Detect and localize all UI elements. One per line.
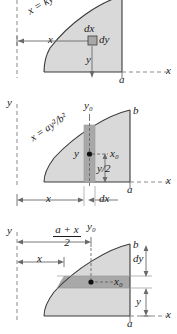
panel-3-a-label: a xyxy=(127,317,133,329)
shaded-area-region xyxy=(44,0,122,72)
panel-2-x0-label: x₀ xyxy=(110,147,119,159)
panel-1-svg xyxy=(0,0,177,96)
panel-2-a-label: a xyxy=(127,183,133,195)
panel-1-y-label: y xyxy=(86,53,91,65)
panel-3-y0-label: y₀ xyxy=(87,220,96,232)
panel-2-y0-label: y₀ xyxy=(84,99,93,111)
differential-element-square xyxy=(88,36,97,45)
panel-3-x0-label: x₀ xyxy=(114,275,123,287)
panel-3-b-label: b xyxy=(133,238,139,250)
dy-arrow-up xyxy=(144,245,149,251)
midpoint-arrow-left xyxy=(17,240,23,245)
panel-3-midpoint-fraction: a + x 2 xyxy=(40,220,94,248)
panel-3-diagram: y a + x 2 y₀ x b dy x₀ y a x xyxy=(0,218,177,334)
panel-2-svg xyxy=(0,96,177,218)
shaded-area-region xyxy=(24,110,130,182)
centroid-dot xyxy=(87,151,92,156)
panel-3-dy-label: dy xyxy=(133,252,143,264)
panel-1-dx-label: dx xyxy=(84,22,94,34)
x-dimension-arrow-right xyxy=(58,260,64,265)
panel-3-midpoint-denominator: 2 xyxy=(40,237,94,249)
panel-2-x-dim-label: x xyxy=(46,192,51,204)
panel-2-y-centroid-label: y xyxy=(74,147,79,159)
x-dimension-arrow-left xyxy=(17,198,23,203)
panel-1-x-label: x xyxy=(48,33,53,45)
panel-2-y-half-label: y/2 xyxy=(97,162,110,174)
panel-3-midpoint-numerator: a + x xyxy=(53,224,80,237)
panel-1-diagram: x = ky² x y dx dy a x xyxy=(0,0,177,96)
x-dimension-arrow-left xyxy=(17,260,23,265)
x-dimension-arrow-right xyxy=(78,198,84,203)
panel-2-y-axis-label: y xyxy=(7,96,12,108)
panel-3-y-dim-label: y xyxy=(136,295,141,307)
panel-3-x-dim-label: x xyxy=(37,252,42,264)
x-dimension-arrowhead xyxy=(18,39,24,44)
panel-1-a-label: a xyxy=(119,73,125,85)
panel-2-b-label: b xyxy=(133,104,139,116)
panel-3-x-axis-label: x xyxy=(166,308,171,320)
panel-2-dx-label: dx xyxy=(99,192,109,204)
panel-2-diagram: y x = ay²/b² y₀ b y x₀ y/2 a x x dx xyxy=(0,96,177,218)
dx-dimension-arrow xyxy=(88,198,94,203)
centroid-dot xyxy=(88,279,93,284)
y-arrow-down xyxy=(144,310,149,316)
panel-3-y-axis-label: y xyxy=(7,224,12,236)
panel-1-dy-label: dy xyxy=(99,33,109,45)
y-arrow-up xyxy=(144,288,149,294)
y-dimension-arrowhead xyxy=(90,71,95,78)
panel-2-x-axis-label: x xyxy=(166,174,171,186)
panel-1-x-axis-label: x xyxy=(166,64,171,76)
